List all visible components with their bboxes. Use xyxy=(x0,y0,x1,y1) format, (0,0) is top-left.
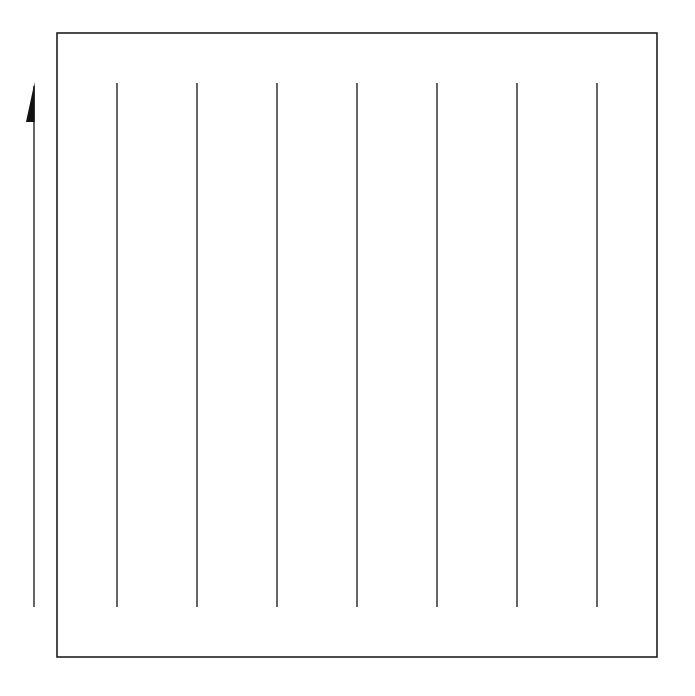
diagram-canvas xyxy=(0,0,695,696)
background xyxy=(0,0,695,696)
